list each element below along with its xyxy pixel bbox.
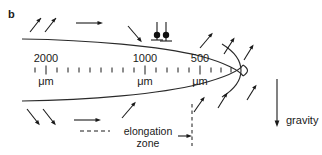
root-gravitropism-figure: b — [0, 0, 322, 155]
scale-unit-2000: μm — [38, 75, 54, 87]
scale-value-2000: 2000 — [34, 52, 58, 64]
arrow-upper-left-2 — [45, 18, 56, 32]
figure-canvas: b — [0, 0, 322, 155]
root-lower-surface — [22, 65, 243, 101]
arrow-lower-mid-up — [122, 102, 136, 118]
arrow-lower-left-2 — [43, 109, 56, 125]
scale-value-500: 500 — [191, 52, 209, 64]
arrow-upper-right-3 — [244, 45, 254, 60]
surface-marker-pin-1 — [151, 22, 163, 40]
arrow-lower-left-1 — [27, 109, 40, 125]
arrow-lower-horizontal — [74, 118, 101, 122]
gravity-arrow-head — [275, 121, 280, 128]
elongation-zone-pointer-arrow — [178, 134, 192, 138]
arrow-upper-right-1 — [200, 33, 213, 48]
elongation-zone-label-line1: elongation — [124, 125, 173, 137]
surface-marker-pins — [151, 22, 172, 41]
panel-letter: b — [8, 8, 15, 20]
arrow-lower-right-1 — [194, 97, 205, 112]
scale-value-1000: 1000 — [133, 52, 157, 64]
elongation-zone-label-line2: zone — [137, 137, 160, 149]
root-outline — [22, 39, 248, 101]
arrow-upper-mid-down — [128, 26, 142, 42]
elongation-zone-annotation: elongation zone — [80, 104, 192, 149]
gravity-label: gravity — [286, 114, 319, 126]
scale-bar: 2000 μm 1000 μm 500 μm — [34, 52, 231, 87]
arrow-lower-right-3 — [247, 85, 257, 100]
arrow-upper-left-1 — [30, 18, 41, 32]
gravity-indicator: gravity — [275, 79, 319, 127]
arrow-lower-right-2 — [218, 93, 228, 108]
lower-arrow-field — [27, 85, 257, 126]
scale-unit-1000: μm — [137, 75, 153, 87]
arrow-upper-horizontal — [76, 21, 103, 25]
root-tip-arc — [243, 65, 248, 76]
scale-unit-500: μm — [192, 75, 208, 87]
surface-marker-pin-2 — [160, 22, 172, 41]
scale-minor-ticks — [35, 68, 231, 73]
